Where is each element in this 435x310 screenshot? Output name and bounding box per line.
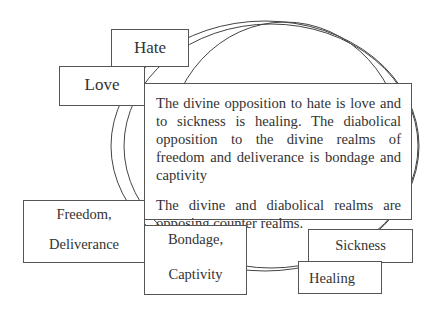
main-text-box: The divine opposition to hate is love an… [144, 83, 412, 220]
sickness-box: Sickness [308, 229, 413, 263]
bondage-label: Bondage, [145, 231, 246, 248]
healing-box: Healing [298, 261, 382, 294]
captivity-label: Captivity [145, 266, 246, 283]
love-label: Love [60, 75, 144, 95]
deliverance-label: Deliverance [24, 236, 144, 253]
sickness-label: Sickness [309, 237, 412, 254]
freedom-label: Freedom, [24, 206, 144, 223]
healing-label: Healing [309, 270, 381, 287]
hate-label: Hate [112, 38, 188, 58]
love-box: Love [59, 66, 145, 106]
main-paragraph-1: The divine opposition to hate is love an… [156, 94, 401, 184]
bondage-captivity-box: Bondage, Captivity [144, 225, 247, 295]
freedom-deliverance-box: Freedom, Deliverance [23, 200, 145, 263]
hate-box: Hate [111, 29, 189, 67]
